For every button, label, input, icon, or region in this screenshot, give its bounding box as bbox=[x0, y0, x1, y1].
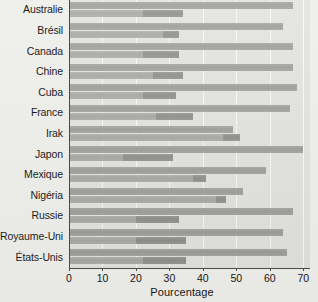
bar-series-2 bbox=[69, 196, 226, 203]
x-tick-label: 20 bbox=[121, 272, 151, 284]
bar-group bbox=[69, 43, 310, 62]
category-label: Russie bbox=[0, 210, 63, 221]
bar-group bbox=[69, 188, 310, 207]
x-tick-label: 30 bbox=[154, 272, 184, 284]
bar-series-2-segment bbox=[143, 51, 180, 58]
bar-series-1 bbox=[69, 84, 297, 91]
x-axis-title: Pourcentage bbox=[0, 286, 318, 298]
bar-series-1 bbox=[69, 229, 283, 236]
x-tick bbox=[236, 268, 237, 271]
category-label: Australie bbox=[0, 4, 63, 15]
category-axis-labels: AustralieBrésilCanadaChineCubaFranceIrak… bbox=[0, 0, 66, 268]
bar-series-1 bbox=[69, 208, 293, 215]
bar-series-1 bbox=[69, 126, 233, 133]
category-label: Brésil bbox=[0, 25, 63, 36]
bar-series-2 bbox=[69, 175, 206, 182]
x-tick-label: 0 bbox=[54, 272, 84, 284]
category-label: États-Unis bbox=[0, 252, 63, 263]
x-tick bbox=[270, 268, 271, 271]
category-label: France bbox=[0, 107, 63, 118]
bar-series-2-segment bbox=[156, 113, 193, 120]
bar-group bbox=[69, 23, 310, 42]
bar-group bbox=[69, 208, 310, 227]
bar-group bbox=[69, 167, 310, 186]
bar-group bbox=[69, 249, 310, 268]
bar-series-2-segment bbox=[136, 237, 186, 244]
bar-series-1 bbox=[69, 167, 266, 174]
bar-series-1 bbox=[69, 146, 303, 153]
bar-series-2-segment bbox=[143, 257, 187, 264]
x-tick-label: 70 bbox=[288, 272, 318, 284]
category-label: Nigéria bbox=[0, 190, 63, 201]
bar-series-1 bbox=[69, 249, 287, 256]
category-label: Cuba bbox=[0, 87, 63, 98]
bar-series-2-segment bbox=[216, 196, 226, 203]
bar-series-1 bbox=[69, 23, 283, 30]
x-tick bbox=[102, 268, 103, 271]
bar-chart: AustralieBrésilCanadaChineCubaFranceIrak… bbox=[0, 0, 318, 302]
bar-series-2-segment bbox=[136, 216, 180, 223]
bar-group bbox=[69, 229, 310, 248]
bar-group bbox=[69, 105, 310, 124]
bar-series-1 bbox=[69, 43, 293, 50]
bar-series-2-segment bbox=[123, 154, 173, 161]
x-tick-label: 60 bbox=[255, 272, 285, 284]
x-axis-line bbox=[69, 268, 310, 269]
category-label: Royaume-Uni bbox=[0, 231, 63, 242]
bar-series-2-segment bbox=[143, 10, 183, 17]
x-tick bbox=[169, 268, 170, 271]
bar-series-2-segment bbox=[153, 72, 183, 79]
category-label: Mexique bbox=[0, 169, 63, 180]
bar-group bbox=[69, 2, 310, 21]
y-axis-line bbox=[69, 0, 70, 268]
plot-area bbox=[69, 0, 310, 268]
x-axis-title-text: Pourcentage bbox=[104, 286, 213, 298]
x-tick-label: 10 bbox=[87, 272, 117, 284]
bar-series-1 bbox=[69, 2, 293, 9]
x-tick bbox=[203, 268, 204, 271]
bar-group bbox=[69, 84, 310, 103]
x-tick bbox=[136, 268, 137, 271]
bar-group bbox=[69, 64, 310, 83]
x-tick-label: 40 bbox=[188, 272, 218, 284]
bar-series-2-segment bbox=[223, 134, 240, 141]
category-label: Chine bbox=[0, 66, 63, 77]
x-tick-label: 50 bbox=[221, 272, 251, 284]
bar-series-1 bbox=[69, 188, 243, 195]
bar-series-2-segment bbox=[193, 175, 206, 182]
x-tick bbox=[69, 268, 70, 271]
bar-group bbox=[69, 126, 310, 145]
bar-series-2-segment bbox=[143, 92, 176, 99]
bar-series-2 bbox=[69, 134, 240, 141]
bar-series-1 bbox=[69, 64, 293, 71]
category-label: Canada bbox=[0, 46, 63, 57]
bar-series-2-segment bbox=[163, 31, 180, 38]
category-label: Irak bbox=[0, 128, 63, 139]
x-tick bbox=[303, 268, 304, 271]
bar-group bbox=[69, 146, 310, 165]
bar-series-1 bbox=[69, 105, 290, 112]
category-label: Japon bbox=[0, 149, 63, 160]
